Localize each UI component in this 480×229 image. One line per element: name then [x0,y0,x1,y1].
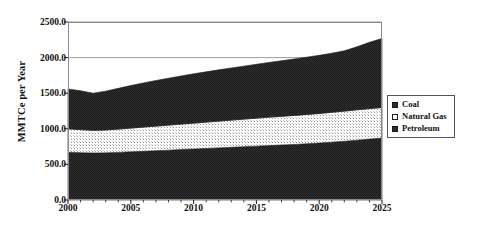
y-axis-tick-label: 2500.0 [4,17,66,27]
plot-area [68,22,382,200]
x-axis-tick-label: 2000 [59,203,78,213]
legend-item-label: Coal [402,100,419,109]
x-axis-tick-label: 2020 [310,203,329,213]
y-axis-tick-label: 0.0 [4,195,66,205]
y-axis-tick-label: 2000.0 [4,53,66,63]
legend-item-petroleum[interactable]: Petroleum [392,123,450,134]
area-series-group [68,38,382,200]
x-axis-tick-label: 2015 [247,203,266,213]
y-axis-tick-labels: 0.0500.01000.01500.02000.02500.0 [0,0,66,229]
y-axis-tick-label: 500.0 [4,159,66,169]
gridlines [68,22,382,58]
stacked-area-svg [68,22,382,200]
legend-item-coal[interactable]: Coal [392,99,450,110]
chart-legend[interactable]: CoalNatural GasPetroleum [387,95,455,138]
x-axis-tick-label: 2010 [184,203,203,213]
y-axis-tick-label: 1500.0 [4,88,66,98]
x-axis-tick-label: 2025 [373,203,392,213]
legend-swatch-icon [392,102,398,108]
legend-swatch-icon [392,126,398,132]
legend-item-label: Natural Gas [402,112,447,121]
chart-figure: MMTCe per Year 0.0500.01000.01500.02000.… [0,0,480,229]
legend-item-natural-gas[interactable]: Natural Gas [392,111,450,122]
legend-item-label: Petroleum [402,124,440,133]
legend-swatch-icon [392,114,398,120]
y-axis-tick-label: 1000.0 [4,124,66,134]
x-axis-tick-label: 2005 [121,203,140,213]
